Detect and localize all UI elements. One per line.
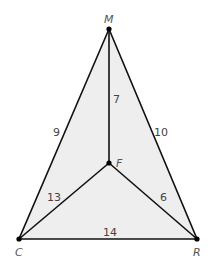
- vertex-R: [194, 236, 199, 241]
- vertex-C: [16, 236, 21, 241]
- length-MR: 10: [154, 126, 168, 139]
- vertex-M: [106, 26, 111, 31]
- label-F: F: [116, 157, 123, 170]
- label-R: R: [193, 246, 201, 259]
- length-CF: 13: [47, 191, 61, 204]
- length-RF: 6: [160, 191, 167, 204]
- triangle-diagram: M C R F 9 10 14 7 13 6: [0, 0, 214, 269]
- length-MF: 7: [113, 93, 120, 106]
- triangle-fill: [19, 29, 197, 239]
- vertex-F: [106, 160, 111, 165]
- length-MC: 9: [53, 126, 60, 139]
- length-CR: 14: [103, 226, 117, 239]
- label-M: M: [104, 13, 114, 26]
- label-C: C: [15, 246, 23, 259]
